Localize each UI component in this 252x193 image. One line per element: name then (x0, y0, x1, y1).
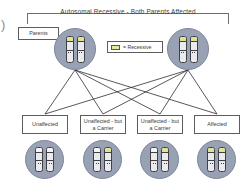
recessive-band (191, 37, 197, 42)
parent-left-cell (54, 28, 96, 70)
chromosome-dot (212, 163, 213, 164)
legend-label: = Recessive (123, 44, 151, 50)
chromosome-dot (109, 163, 110, 164)
centromere (36, 160, 42, 161)
chromosome-dot (68, 52, 69, 53)
chromosome (77, 36, 85, 63)
offspring-1-cell (25, 140, 64, 179)
chromosome-dot (107, 163, 108, 164)
centromere (105, 160, 111, 161)
chromosome-dot (164, 163, 165, 164)
offspring-2-label: Unaffected - but a Carrier (80, 115, 126, 134)
dominant-band (151, 148, 157, 153)
chromosome (35, 147, 43, 172)
offspring-4-cell (197, 140, 236, 179)
chromosome-dot (38, 163, 39, 164)
offspring-3-label: Unaffected - but a Carrier (137, 115, 183, 134)
chromosome-dot (183, 52, 184, 53)
offspring-1-label: Unaffected (22, 115, 68, 134)
centromere (151, 160, 157, 161)
centromere (78, 50, 84, 51)
legend: = Recessive (107, 41, 163, 53)
chromosome-dot (79, 52, 80, 53)
parents-label: Parents (18, 27, 59, 40)
chromosome (104, 147, 112, 172)
chromosome-dot (210, 163, 211, 164)
centromere (191, 50, 197, 51)
chromosome-dot (192, 52, 193, 53)
parent-right-cell (167, 28, 209, 70)
offspring-3-cell (140, 140, 179, 179)
recessive-allele-swatch-icon (111, 45, 120, 50)
recessive-band (105, 148, 111, 153)
centromere (47, 160, 53, 161)
chromosome (46, 147, 54, 172)
chromosome-dot (194, 52, 195, 53)
recessive-band (67, 37, 73, 42)
diagram-title: Autosomal Recessive - Both Parents Affec… (30, 8, 226, 15)
chromosome (161, 147, 169, 172)
chromosome-dot (81, 52, 82, 53)
chromosome-dot (98, 163, 99, 164)
chromosome (93, 147, 101, 172)
chromosome-dot (51, 163, 52, 164)
chromosome-dot (155, 163, 156, 164)
recessive-band (162, 148, 168, 153)
centromere (94, 160, 100, 161)
chromosome-dot (70, 52, 71, 53)
chromosome-dot (221, 163, 222, 164)
chromosome-dot (181, 52, 182, 53)
chromosome-dot (153, 163, 154, 164)
recessive-band (208, 148, 214, 153)
chromosome (66, 36, 74, 63)
dominant-band (47, 148, 53, 153)
recessive-band (78, 37, 84, 42)
offspring-2-cell (83, 140, 122, 179)
chromosome-dot (96, 163, 97, 164)
edge-artifact-glyph: ) (1, 18, 5, 31)
autosomal-recessive-inheritance-diagram: ) Autosomal Recessive - Both Parents Aff… (0, 0, 252, 193)
centromere (219, 160, 225, 161)
chromosome (207, 147, 215, 172)
centromere (67, 50, 73, 51)
chromosome-dot (166, 163, 167, 164)
dominant-band (36, 148, 42, 153)
chromosome-dot (223, 163, 224, 164)
centromere (208, 160, 214, 161)
chromosome (150, 147, 158, 172)
recessive-band (219, 148, 225, 153)
centromere (162, 160, 168, 161)
chromosome (218, 147, 226, 172)
chromosome-dot (49, 163, 50, 164)
centromere (180, 50, 186, 51)
chromosome (190, 36, 198, 63)
recessive-band (180, 37, 186, 42)
chromosome-dot (40, 163, 41, 164)
offspring-4-label: Affected (194, 115, 240, 134)
chromosome (179, 36, 187, 63)
dominant-band (94, 148, 100, 153)
